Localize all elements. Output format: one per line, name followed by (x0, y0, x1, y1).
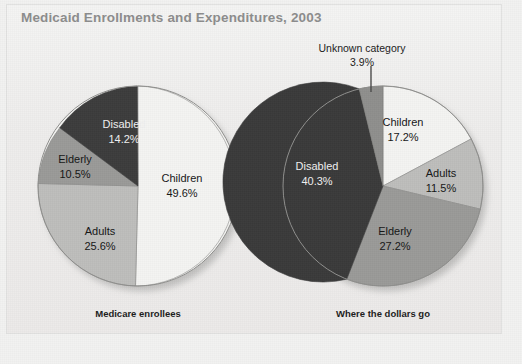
slice-label-right-disabled-name: Disabled (296, 160, 339, 172)
slice-label-right-adults-name: Adults (426, 167, 457, 179)
chart-page: Medicaid Enrollments and Expenditures, 2… (0, 0, 522, 364)
slice-label-right-elderly-value: 27.2% (379, 240, 410, 252)
unknown-category-callout: Unknown category 3.9% (319, 42, 407, 68)
slice-label-right-elderly-name: Elderly (378, 225, 412, 237)
slice-label-left-disabled-value: 14.2% (108, 133, 139, 145)
slice-label-left-adults-value: 25.6% (84, 240, 115, 252)
slice-label-right-disabled-value: 40.3% (301, 175, 332, 187)
slice-label-right-children-value: 17.2% (387, 131, 418, 143)
unknown-category-value: 3.9% (350, 56, 374, 68)
slice-left-children[interactable] (135, 86, 235, 286)
slice-label-right-children-name: Children (383, 116, 424, 128)
slice-label-left-elderly-name: Elderly (58, 153, 92, 165)
source-note (0, 352, 522, 363)
slice-label-left-adults-name: Adults (85, 225, 116, 237)
slice-label-right-adults-value: 11.5% (426, 182, 457, 194)
chart-caption-right: Where the dollars go (323, 308, 443, 319)
unknown-category-label: Unknown category (319, 42, 407, 54)
slice-label-left-children-value: 49.6% (166, 187, 197, 199)
slice-label-left-elderly-value: 10.5% (59, 168, 90, 180)
chart-caption-left: Medicare enrollees (78, 308, 198, 319)
slice-label-left-disabled-name: Disabled (103, 118, 146, 130)
slice-label-left-children-name: Children (162, 172, 203, 184)
